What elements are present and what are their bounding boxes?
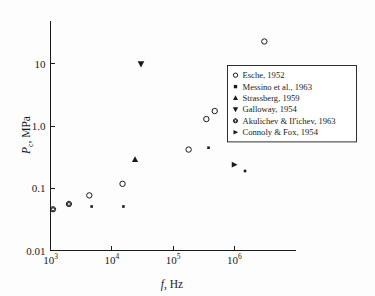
legend-item[interactable]: Connoly & Fox, 1954 [234, 127, 319, 137]
y-tick-label: 0.01 [26, 245, 45, 257]
series-unlabeled-small [90, 146, 246, 207]
marker-circle-open [212, 108, 217, 113]
legend-item-label: Galloway, 1954 [243, 104, 298, 114]
legend: Esche, 1952Messino et al., 1963Strassber… [228, 66, 357, 142]
marker-circle-open [204, 116, 209, 121]
marker-circle-open [120, 181, 125, 186]
legend-item-label: Strassberg, 1959 [243, 93, 300, 103]
marker-circle-open [87, 193, 92, 198]
scatter-plot: 103104105106 0.010.11.010 f, Hz Pc, MPa … [0, 0, 375, 296]
marker-circle-open [262, 39, 267, 44]
legend-item-label: Messino et al., 1963 [243, 82, 312, 92]
svg-text:f, Hz: f, Hz [161, 278, 183, 291]
series-connoly-fox-1954 [232, 162, 238, 168]
marker-asterisk-small [90, 205, 93, 208]
legend-item[interactable]: Messino et al., 1963 [234, 82, 312, 92]
y-tick-label: 10 [35, 58, 47, 70]
axes-group: 103104105106 0.010.11.010 [26, 21, 295, 266]
x-tick-label: 104 [104, 252, 119, 266]
y-axis-symbol: P [20, 147, 32, 155]
series-akulichev-il-ichev-1963 [50, 200, 73, 212]
x-axis-title: f, Hz [161, 278, 183, 291]
y-tick-label: 0.1 [32, 182, 46, 194]
x-axis-unit: , Hz [164, 278, 183, 291]
x-tick-label: 105 [166, 252, 181, 266]
marker-asterisk-small [244, 170, 247, 173]
marker-triangle-right-filled [232, 162, 238, 168]
marker-star-circle-open [66, 200, 73, 206]
figure-container: 103104105106 0.010.11.010 f, Hz Pc, MPa … [0, 0, 375, 296]
marker-asterisk-small [207, 146, 210, 149]
legend-item[interactable]: Strassberg, 1959 [233, 93, 300, 103]
marker-asterisk-small [122, 205, 125, 208]
series-galloway-1954 [138, 61, 145, 67]
marker-triangle-up-filled [132, 156, 138, 162]
y-axis-unit: , MPa [20, 116, 33, 143]
y-tick-label: 1.0 [32, 120, 46, 132]
series-strassberg-1959 [132, 156, 138, 162]
marker-circle-open [186, 147, 191, 152]
legend-item-label: Connoly & Fox, 1954 [243, 127, 319, 137]
marker-square-filled [234, 85, 237, 88]
marker-triangle-down-filled [138, 61, 145, 67]
x-axis-ticks: 103104105106 [43, 246, 242, 266]
legend-item[interactable]: Akulichev & Il'ichev, 1963 [233, 116, 336, 126]
legend-item-label: Akulichev & Il'ichev, 1963 [243, 116, 336, 126]
x-tick-label: 106 [227, 252, 242, 266]
legend-item-label: Esche, 1952 [243, 70, 285, 80]
legend-item[interactable]: Galloway, 1954 [233, 104, 298, 114]
